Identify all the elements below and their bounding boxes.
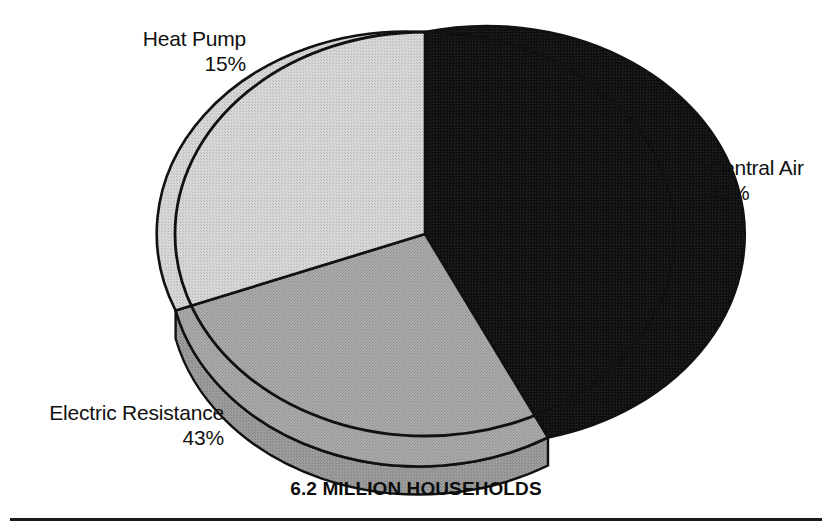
slice-label-heat-pump-value: 15%	[118, 51, 246, 76]
slice-label-electric-resistance-name: Electric Resistance	[6, 400, 224, 425]
slice-label-heat-pump-name: Heat Pump	[118, 26, 246, 51]
slice-label-central-air-name: Central Air	[708, 155, 804, 180]
slice-label-central-air: Central Air 42%	[708, 155, 804, 205]
slice-label-electric-resistance-value: 43%	[6, 425, 224, 450]
pie-chart-figure: Heat Pump 15% Central Air 42% Electric R…	[0, 0, 832, 530]
chart-caption: 6.2 MILLION HOUSEHOLDS	[0, 478, 832, 500]
slice-label-electric-resistance: Electric Resistance 43%	[6, 400, 224, 450]
slice-label-heat-pump: Heat Pump 15%	[118, 26, 246, 76]
pie-top-face	[157, 26, 745, 466]
pie-chart-graphic	[0, 0, 832, 530]
bottom-divider-rule	[10, 518, 822, 521]
slice-label-central-air-value: 42%	[708, 180, 804, 205]
